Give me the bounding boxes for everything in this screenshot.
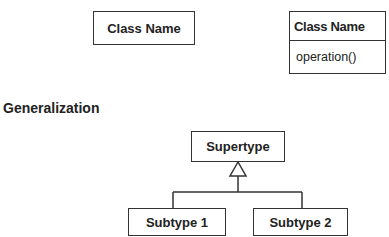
- hollow-triangle-arrow-icon: [230, 162, 246, 176]
- supertype-label: Supertype: [206, 139, 270, 154]
- subtype-1-box: Subtype 1: [128, 208, 226, 236]
- subtype-2-box: Subtype 2: [253, 208, 348, 236]
- supertype-box: Supertype: [191, 131, 285, 162]
- subtype-1-label: Subtype 1: [146, 215, 208, 230]
- generalization-connectors: [0, 0, 389, 237]
- subtype-2-label: Subtype 2: [269, 215, 331, 230]
